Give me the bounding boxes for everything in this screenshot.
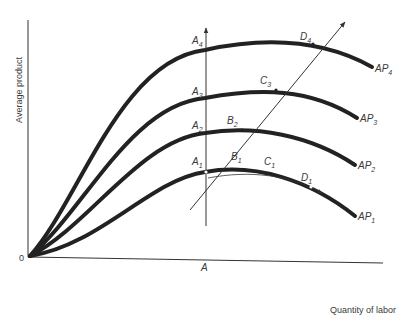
d4-label: D4 [300, 31, 311, 44]
point-c3 [274, 88, 277, 91]
a3-label: A3 [191, 86, 203, 99]
origin-label: 0 [19, 253, 24, 263]
point-a4 [204, 48, 207, 51]
point-a2 [204, 131, 207, 134]
y-axis-label: Average product [14, 57, 24, 123]
point-b2 [240, 128, 243, 131]
x-marker-a-label: A [200, 262, 208, 273]
b2-label: B2 [227, 115, 238, 128]
point-a1 [204, 170, 207, 173]
c1-label: C1 [264, 156, 275, 169]
ap4-curve [30, 42, 372, 256]
ap4-label: AP4 [374, 63, 392, 76]
point-b1 [239, 164, 242, 167]
c3-label: C3 [260, 75, 271, 88]
b1-label: B1 [231, 151, 242, 164]
x-axis-label: Quantity of labor [330, 305, 396, 315]
ap2-curve [30, 130, 355, 256]
a1-label: A1 [191, 156, 203, 169]
point-d4 [311, 42, 314, 45]
ap2-label: AP2 [357, 160, 375, 173]
a2-label: A2 [191, 120, 203, 133]
a4-label: A4 [191, 35, 203, 48]
point-a3 [204, 96, 207, 99]
point-c1 [273, 169, 276, 172]
average-product-diagram: Average product Quantity of labor 0 A AP… [0, 0, 407, 319]
ap1-label: AP1 [357, 211, 375, 224]
point-d1 [309, 185, 312, 188]
ap3-label: AP3 [359, 113, 377, 126]
